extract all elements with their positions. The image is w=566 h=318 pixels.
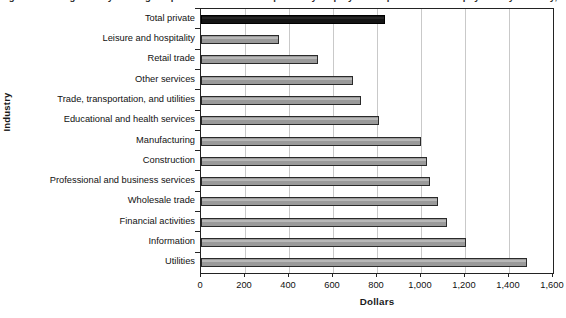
figure-title-text: Figure 1. Average hourly earnings of pro… [0,0,566,3]
bar-leisure-and-hospitality [201,35,279,44]
category-label: Financial activities [120,215,195,228]
bar-professional-and-business-services [201,177,430,186]
bar-trade-transportation-and-utilities [201,96,361,105]
category-label: Construction [143,154,195,167]
category-label: Leisure and hospitality [102,32,195,45]
x-axis-tick [464,273,465,277]
bar-information [201,238,466,247]
bar-retail-trade [201,55,318,64]
x-axis-tick [420,273,421,277]
x-axis-tick [244,273,245,277]
x-axis-tick [288,273,289,277]
y-axis-tick [195,89,200,90]
category-label: Wholesale trade [128,194,195,207]
y-axis-tick [195,211,200,212]
category-label: Retail trade [147,52,195,65]
y-axis-tick [195,49,200,50]
y-axis-tick [195,69,200,70]
x-axis-tick [332,273,333,277]
category-label: Manufacturing [136,134,195,147]
category-label: Other services [135,73,195,86]
bar-other-services [201,76,353,85]
y-axis-tick [195,8,200,9]
bar-manufacturing [201,137,421,146]
bar-construction [201,157,427,166]
bar-educational-and-health-services [201,116,379,125]
y-axis-ticks [195,8,201,272]
bar-financial-activities [201,218,447,227]
y-axis-tick [195,130,200,131]
x-axis-tick-labels: 02004006008001,0001,2001,4001,600 [200,279,554,292]
category-label: Information [148,235,195,248]
bar-series [201,9,553,273]
y-axis-tick [195,110,200,111]
y-axis-title: Industry [1,72,15,152]
category-label: Professional and business services [50,174,195,187]
bar-utilities [201,258,527,267]
y-axis-tick [195,170,200,171]
x-axis-title: Dollars [200,296,554,307]
category-axis-labels: Total privateLeisure and hospitalityReta… [20,8,198,272]
category-label: Educational and health services [64,113,195,126]
y-axis-tick [195,231,200,232]
y-axis-tick [195,252,200,253]
x-axis-tick [508,273,509,277]
x-axis-tick [200,273,201,277]
category-label: Utilities [165,255,195,268]
plot-area [200,8,554,274]
y-axis-tick [195,28,200,29]
x-axis-tick-label: 1,600 [522,279,566,291]
y-axis-tick [195,191,200,192]
x-axis-tick [552,273,553,277]
figure-title: Figure 1. Average hourly earnings of pro… [0,0,566,3]
category-label: Trade, transportation, and utilities [57,93,195,106]
x-axis-tick [376,273,377,277]
y-axis-tick [195,150,200,151]
x-axis-ticks [200,273,554,278]
bar-wholesale-trade [201,197,438,206]
category-label: Total private [145,12,195,25]
bar-total-private [201,15,385,24]
